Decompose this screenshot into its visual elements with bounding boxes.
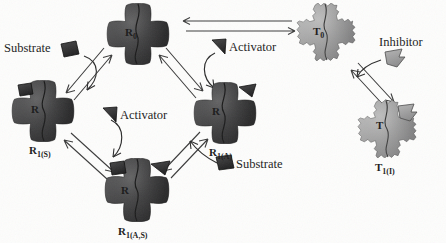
state-label-R-left: R [31, 104, 39, 115]
bound-substrate-r1as [110, 161, 126, 175]
state-caption-R1A: R1(A) [209, 147, 232, 161]
state-letter-R1AS: R [121, 184, 129, 196]
reaction-arrow-r0-t0 [183, 18, 295, 35]
state-caption-R1AS: R1(A,S) [118, 226, 148, 240]
state-body-R1AS [105, 158, 170, 222]
bound-substrate-r1s [18, 83, 33, 96]
state-body-R1S [12, 80, 74, 142]
ligand-label-inhibitor: Inhibitor [379, 36, 423, 49]
inhibitor-arrow-glyph [385, 49, 405, 67]
binding-arrow-activator-to-r1as [111, 120, 122, 157]
reaction-arrow-r1a-r1as [163, 132, 208, 178]
activator-triangle-glyph-right [212, 39, 226, 54]
state-label-R-bottom: R [121, 185, 129, 196]
state-letter-R0: R [125, 26, 133, 38]
state-caption-T1I: T1(I) [375, 162, 395, 176]
state-label-T0: T0 [313, 26, 324, 40]
state-label-R0: R0 [125, 27, 137, 41]
state-caption-R1S: R1(S) [29, 145, 51, 159]
bound-activator-r1a [239, 84, 256, 97]
binding-arrow-activator-to-r1a [204, 53, 215, 88]
activator-triangle-glyph-center [103, 107, 117, 122]
state-body-T0 [297, 3, 355, 61]
reaction-arrow-r0-r1a [159, 48, 203, 98]
ligand-label-substrate-top: Substrate [4, 42, 51, 55]
state-subscript-T0: 0 [320, 31, 324, 40]
state-body-R1A [194, 82, 256, 144]
state-label-T-right: T [376, 120, 383, 131]
state-letter-T1I: T [376, 119, 383, 131]
ligand-label-activator-center: Activator [120, 109, 167, 122]
reaction-arrow-r0-r1s [66, 48, 112, 100]
diagram-canvas: R0 T0 R R R T R1(S) R1(A) R1(A,S) T1(I) … [0, 0, 446, 243]
state-label-R-right: R [212, 106, 220, 117]
ligand-label-activator-right: Activator [229, 41, 276, 54]
substrate-square-glyph-top [61, 41, 79, 57]
bound-inhibitor-t1i [398, 104, 417, 121]
ligand-label-substrate-bottom: Substrate [236, 158, 283, 171]
state-letter-R1S: R [31, 103, 39, 115]
state-subscript-R0: 0 [133, 32, 137, 41]
state-letter-R1A: R [212, 105, 220, 117]
reaction-arrow-r1s-r1as [64, 133, 114, 179]
state-body-T1I [358, 100, 417, 158]
binding-arrow-substrate-to-r1s [84, 56, 96, 90]
bound-activator-r1as [151, 161, 170, 175]
